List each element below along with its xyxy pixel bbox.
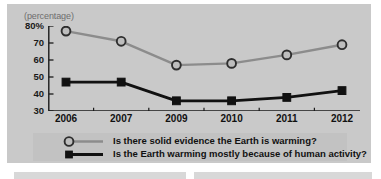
legend-item-label: Is the Earth warming mostly because of h… [113,148,367,159]
axis-spine [49,26,360,111]
y-axis-tick-label: 80% [25,21,44,31]
legend-item: Is there solid evidence the Earth is war… [33,134,347,147]
data-point-circle [172,61,181,70]
x-axis-tick-label: 2012 [331,114,353,124]
series-line [66,31,342,65]
x-axis-tick-label: 2011 [276,114,298,124]
chart-screenshot: (percentage) 80%7060504030 2006200720092… [0,0,381,179]
y-axis-tick-label: 30 [33,106,44,116]
y-axis-tick-labels: 80%7060504030 [13,26,44,111]
y-axis-tick-label: 60 [33,55,44,65]
data-point-square [117,78,125,86]
data-point-circle [282,51,291,60]
data-point-circle [227,59,236,68]
data-point-square [283,94,291,102]
legend-marker-svg [61,148,107,161]
legend-item: Is the Earth warming mostly because of h… [33,147,347,160]
bottom-panel-right [194,172,372,179]
bottom-cropped-strip [0,170,381,179]
x-axis-tick-labels: 200620072009201020112012 [48,114,360,128]
series-line [66,82,342,101]
legend-item-label: Is there solid evidence the Earth is war… [113,135,317,146]
y-axis-tick-label: 70 [33,38,44,48]
square-marker-icon [61,147,107,160]
data-point-square [173,97,181,105]
data-point-square [62,78,70,86]
plot-area [48,26,360,111]
chart-legend: Is there solid evidence the Earth is war… [33,133,347,161]
data-point-circle [62,27,71,36]
bottom-panel-left [14,172,186,179]
x-axis-tick-label: 2006 [55,114,77,124]
x-axis-tick-label: 2009 [165,114,187,124]
data-point-circle [117,37,126,46]
y-axis-tick-label: 50 [33,72,44,82]
circle-marker-icon [61,134,107,147]
x-axis-tick-label: 2007 [110,114,132,124]
legend-circle-icon [65,137,74,146]
legend-square-icon [65,151,73,159]
data-point-square [228,97,236,105]
figure-panel: (percentage) 80%7060504030 2006200720092… [7,4,371,163]
line-chart-svg [48,26,360,111]
data-point-square [338,87,346,95]
data-point-circle [338,40,347,49]
y-axis-tick-label: 40 [33,89,44,99]
x-axis-tick-label: 2010 [220,114,242,124]
